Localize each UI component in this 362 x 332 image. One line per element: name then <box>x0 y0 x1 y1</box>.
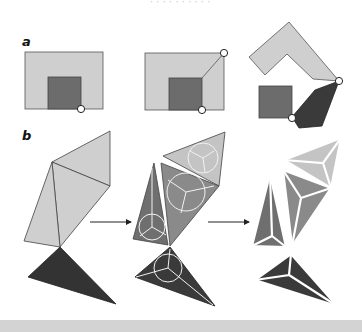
inner-square <box>169 78 202 110</box>
diagram-figure <box>0 0 362 320</box>
triangle-left <box>252 174 286 247</box>
triangle-dark <box>28 247 116 304</box>
inner-square <box>48 77 81 109</box>
chevron-piece <box>249 22 339 81</box>
hinge-point-bottom <box>288 114 295 121</box>
panel-a-step3 <box>249 22 343 128</box>
panel-b-step1 <box>24 131 116 304</box>
hinge-point-right <box>335 77 342 84</box>
square-piece <box>259 86 292 118</box>
panel-b-step2 <box>133 132 225 306</box>
bottom-band <box>0 320 362 332</box>
hinge-point <box>77 105 84 112</box>
panel-a-step1 <box>25 52 103 113</box>
hinge-point-bottom <box>198 106 205 113</box>
panel-a-step2 <box>145 49 228 113</box>
dark-quad-piece <box>292 81 339 128</box>
panel-b-step3 <box>252 138 341 306</box>
hinge-point-top <box>220 49 227 56</box>
